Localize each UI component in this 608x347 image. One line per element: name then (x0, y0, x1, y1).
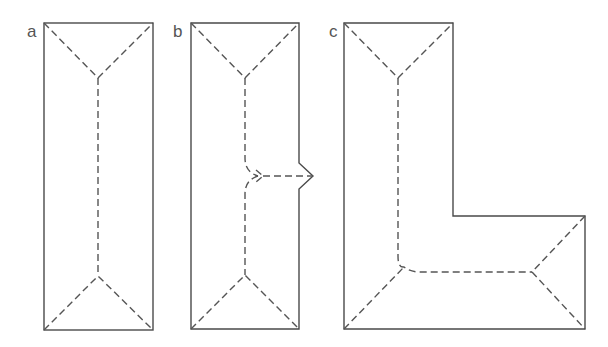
panel-b-top-hip (191, 23, 299, 78)
panel-label-a: a (27, 22, 37, 41)
panel-c-ridge (398, 78, 532, 272)
panel-a-top-hip (44, 23, 153, 78)
panel-a-outline (44, 23, 153, 330)
panel-c-top-hip (344, 23, 453, 78)
panel-a-bottom-hip (44, 276, 153, 330)
roof-plan-diagram: a b c (0, 0, 608, 347)
panel-b-outline (191, 23, 313, 329)
panel-b-bottom-hip (191, 275, 299, 329)
panel-label-c: c (329, 22, 338, 41)
panel-c: c (329, 22, 585, 329)
panel-label-b: b (173, 22, 182, 41)
panel-c-outline (344, 23, 585, 329)
panel-c-valley-hip (344, 267, 404, 329)
panel-c-end-hip (532, 216, 585, 329)
panel-b-lower-ridge (245, 176, 258, 275)
panel-b-upper-ridge (245, 78, 258, 176)
panel-b: b (173, 22, 313, 329)
panel-a: a (27, 22, 153, 330)
